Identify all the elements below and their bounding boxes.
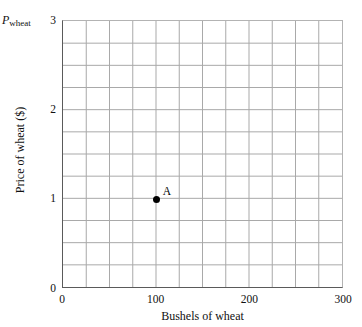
grid-lines (63, 21, 342, 287)
x-axis-title: Bushels of wheat (62, 310, 343, 322)
y-tick-label-0: 0 (34, 283, 56, 295)
y-axis-title: Price of wheat ($) (14, 70, 26, 230)
y-tick-label-3: 3 (34, 15, 56, 27)
x-axis-tick-labels: 0100200300 (0, 294, 362, 310)
y-tick-label-1: 1 (34, 193, 56, 205)
plot-area: A (62, 20, 343, 288)
data-point-label-a: A (163, 186, 171, 198)
y-axis-symbol-subscript: wheat (9, 18, 31, 28)
y-axis-tick-labels: 0123 (30, 0, 56, 327)
x-tick-label-200: 200 (226, 294, 272, 306)
y-tick-label-2: 2 (34, 104, 56, 116)
x-tick-label-100: 100 (133, 294, 179, 306)
x-tick-label-300: 300 (320, 294, 362, 306)
x-tick-label-0: 0 (39, 294, 85, 306)
y-axis-symbol-label: Pwheat (2, 14, 31, 28)
chart-figure: Pwheat Price of wheat ($) 0123 A 0100200… (0, 0, 362, 327)
